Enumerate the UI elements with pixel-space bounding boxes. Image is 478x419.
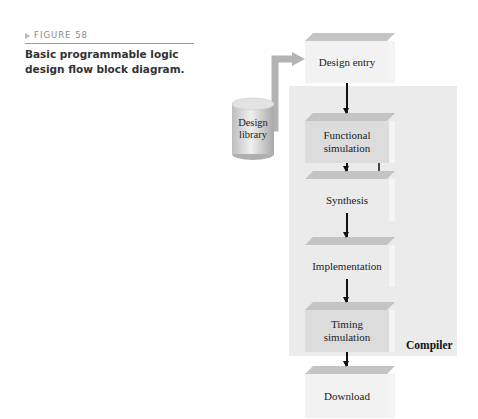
design-library-label: Design library [232, 117, 274, 141]
block-face: Functionalsimulation [305, 121, 395, 163]
block-download: Download [305, 366, 395, 418]
block-face: Implementation [305, 245, 395, 287]
arrow-down-icon [346, 213, 348, 237]
block-label: Design entry [319, 56, 376, 69]
arrow-down-icon [346, 163, 348, 171]
block-implementation: Implementation [305, 237, 395, 287]
block-timing-simulation: Timingsimulation [305, 302, 395, 352]
block-label-1: Functional [323, 129, 370, 142]
arrow-down-icon [346, 279, 348, 302]
block-face: Synthesis [305, 179, 395, 221]
arrow-down-icon [346, 83, 348, 113]
block-functional-simulation: Functionalsimulation [305, 113, 395, 163]
block-label-2: simulation [324, 331, 370, 344]
block-label: Implementation [312, 260, 382, 273]
block-label-1: Timing [331, 318, 363, 331]
library-line2: library [232, 129, 274, 141]
block-label: Synthesis [326, 194, 368, 207]
connector-graphics [0, 0, 478, 419]
block-face: Design entry [305, 41, 395, 83]
block-design-entry: Design entry [305, 33, 395, 83]
arrow-down-icon [346, 352, 348, 366]
block-label-2: simulation [324, 142, 370, 155]
block-face: Timingsimulation [305, 310, 395, 352]
block-synthesis: Synthesis [305, 171, 395, 221]
library-line1: Design [232, 117, 274, 129]
block-label: Download [324, 390, 370, 403]
block-face: Download [305, 374, 395, 418]
